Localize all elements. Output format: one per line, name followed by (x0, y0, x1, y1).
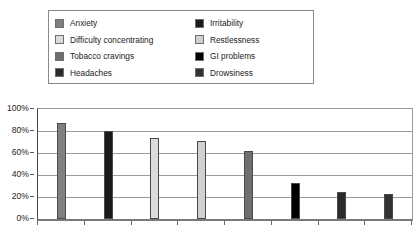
chart-legend: Anxiety Irritability Difficulty concentr… (48, 10, 314, 84)
legend-swatch-tobacco-cravings (55, 52, 64, 61)
y-tick-label: 0% (17, 214, 29, 223)
bar-slot (132, 109, 179, 219)
bar-headaches (337, 192, 346, 220)
x-tick-mark (84, 220, 85, 225)
legend-label-difficulty-concentrating: Difficulty concentrating (70, 36, 153, 44)
legend-item-drowsiness: Drowsiness (195, 65, 309, 82)
legend-swatch-anxiety (55, 19, 64, 28)
legend-swatch-gi-problems (195, 52, 204, 61)
bar-restlessness (197, 141, 206, 219)
legend-swatch-drowsiness (195, 68, 204, 77)
bar-slot (38, 109, 85, 219)
bar-anxiety (57, 123, 66, 219)
legend-label-irritability: Irritability (210, 19, 243, 27)
y-tick-label: 60% (12, 148, 29, 157)
legend-label-anxiety: Anxiety (70, 19, 97, 27)
legend-swatch-difficulty-concentrating (55, 35, 64, 44)
y-axis: 100%80%60%40%20%0% (0, 100, 34, 244)
y-tick-label: 100% (7, 104, 29, 113)
x-tick-mark (224, 220, 225, 225)
legend-item-gi-problems: GI problems (195, 48, 309, 65)
y-tick-label: 20% (12, 192, 29, 201)
legend-swatch-restlessness (195, 35, 204, 44)
bar-series (38, 109, 412, 219)
y-tick-mark (30, 130, 34, 131)
x-tick-mark (364, 220, 365, 225)
y-tick-mark (30, 196, 34, 197)
plot-area (37, 108, 413, 221)
y-tick-label: 40% (12, 170, 29, 179)
x-tick-mark (131, 220, 132, 225)
bar-irritability (104, 131, 113, 219)
bar-slot (365, 109, 412, 219)
legend-label-headaches: Headaches (70, 69, 112, 77)
bar-slot (85, 109, 132, 219)
bar-slot (272, 109, 319, 219)
legend-swatch-irritability (195, 19, 204, 28)
legend-item-headaches: Headaches (55, 65, 195, 82)
legend-item-difficulty-concentrating: Difficulty concentrating (55, 32, 195, 49)
bar-drowsiness (384, 194, 393, 219)
bar-slot (319, 109, 366, 219)
legend-item-anxiety: Anxiety (55, 15, 195, 32)
bar-chart: 100%80%60%40%20%0% (0, 100, 420, 244)
x-axis-ticks (37, 220, 411, 228)
y-tick-mark (30, 108, 34, 109)
legend-label-gi-problems: GI problems (210, 52, 255, 60)
x-tick-mark (177, 220, 178, 225)
legend-grid: Anxiety Irritability Difficulty concentr… (55, 15, 309, 81)
x-tick-mark (411, 220, 412, 225)
bar-slot (225, 109, 272, 219)
legend-item-restlessness: Restlessness (195, 32, 309, 49)
legend-item-tobacco-cravings: Tobacco cravings (55, 48, 195, 65)
bar-gi-problems (291, 183, 300, 219)
x-tick-mark (271, 220, 272, 225)
y-tick-mark (30, 218, 34, 219)
x-tick-mark (37, 220, 38, 225)
legend-swatch-headaches (55, 68, 64, 77)
legend-label-restlessness: Restlessness (210, 36, 259, 44)
legend-label-drowsiness: Drowsiness (210, 69, 253, 77)
legend-item-irritability: Irritability (195, 15, 309, 32)
y-tick-mark (30, 152, 34, 153)
bar-tobacco-cravings (244, 151, 253, 219)
x-tick-mark (318, 220, 319, 225)
y-tick-mark (30, 174, 34, 175)
legend-label-tobacco-cravings: Tobacco cravings (70, 52, 134, 60)
bar-difficulty-concentrating (150, 138, 159, 219)
bar-slot (178, 109, 225, 219)
y-tick-label: 80% (12, 126, 29, 135)
